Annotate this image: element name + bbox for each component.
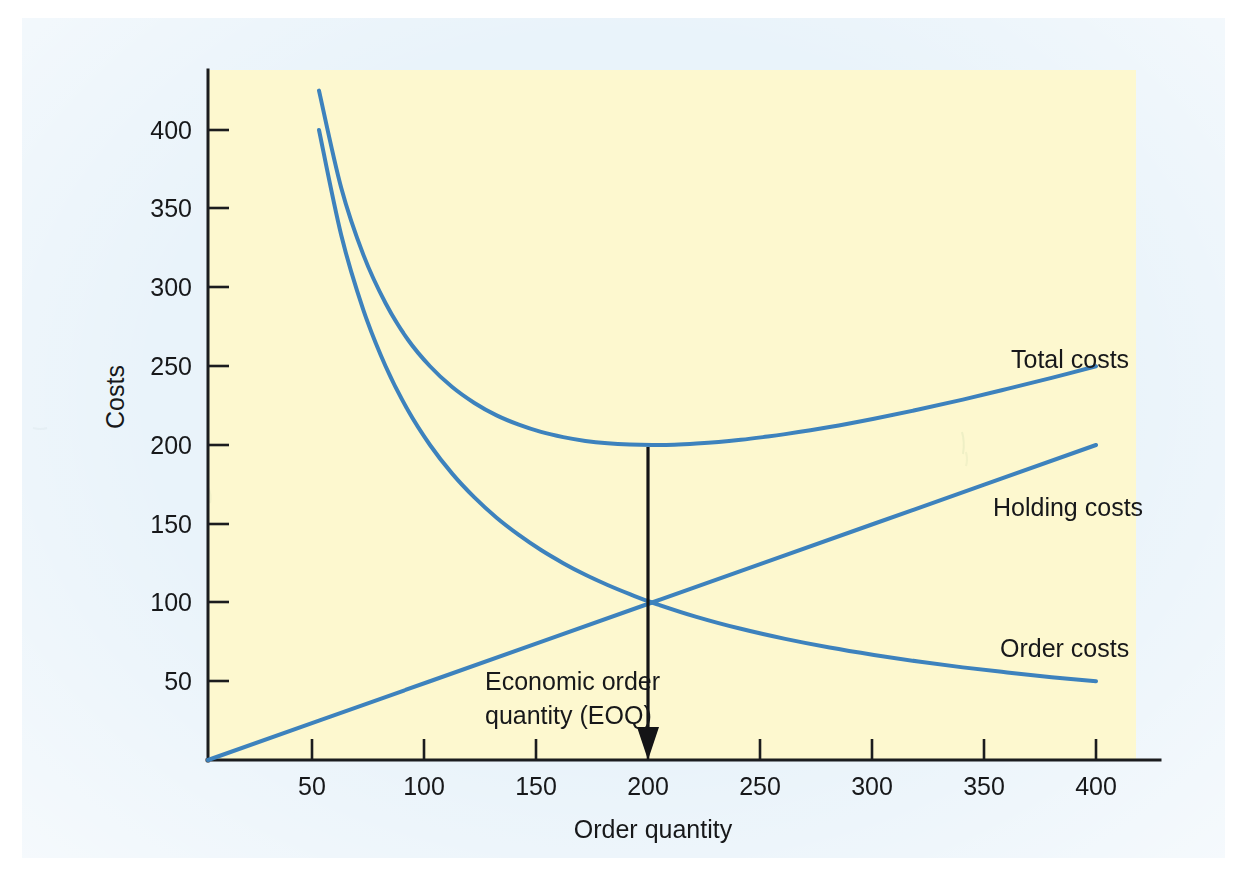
x-tick-label-150: 150 xyxy=(515,772,557,800)
y-tick-label-400: 400 xyxy=(150,116,192,144)
x-tick-label-400: 400 xyxy=(1075,772,1117,800)
x-tick-label-50: 50 xyxy=(298,772,326,800)
holding-costs-label: Holding costs xyxy=(993,493,1143,521)
eoq-label-line1: Economic order xyxy=(485,667,660,695)
y-tick-label-250: 250 xyxy=(150,352,192,380)
x-tick-label-300: 300 xyxy=(851,772,893,800)
figure-root: 400 350 300 250 200 150 100 50 50 100 15… xyxy=(0,0,1247,875)
y-tick-label-300: 300 xyxy=(150,273,192,301)
y-tick-label-100: 100 xyxy=(150,588,192,616)
y-axis-tick-labels: 400 350 300 250 200 150 100 50 xyxy=(150,116,192,695)
x-axis-title: Order quantity xyxy=(574,815,733,843)
plot-area-background xyxy=(207,70,1136,761)
order-costs-label: Order costs xyxy=(1000,634,1129,662)
y-axis-title: Costs xyxy=(101,365,129,429)
x-tick-label-350: 350 xyxy=(963,772,1005,800)
y-tick-label-350: 350 xyxy=(150,194,192,222)
total-costs-label: Total costs xyxy=(1011,345,1129,373)
y-tick-label-200: 200 xyxy=(150,431,192,459)
x-tick-label-200: 200 xyxy=(627,772,669,800)
x-tick-label-100: 100 xyxy=(403,772,445,800)
x-tick-label-250: 250 xyxy=(739,772,781,800)
eoq-label-line2: quantity (EOQ) xyxy=(485,701,652,729)
y-tick-label-150: 150 xyxy=(150,510,192,538)
eoq-chart: 400 350 300 250 200 150 100 50 50 100 15… xyxy=(0,0,1247,875)
y-tick-label-50: 50 xyxy=(164,667,192,695)
x-axis-tick-labels: 50 100 150 200 250 300 350 400 xyxy=(298,772,1117,800)
